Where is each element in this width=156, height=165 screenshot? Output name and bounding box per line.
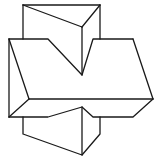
slab-bottom [9,99,153,117]
line-drawing [0,0,156,165]
slab-top-back [9,39,133,75]
top-prism-diagonal [23,5,82,27]
slab-left-slant [9,39,29,99]
slab-left-bottom-diag [9,99,29,117]
geometric-solid-figure [0,0,156,165]
slab-right-slant [133,39,153,99]
top-prism-front-diagonal [82,5,100,27]
bottom-prism-left-edge [23,117,100,155]
